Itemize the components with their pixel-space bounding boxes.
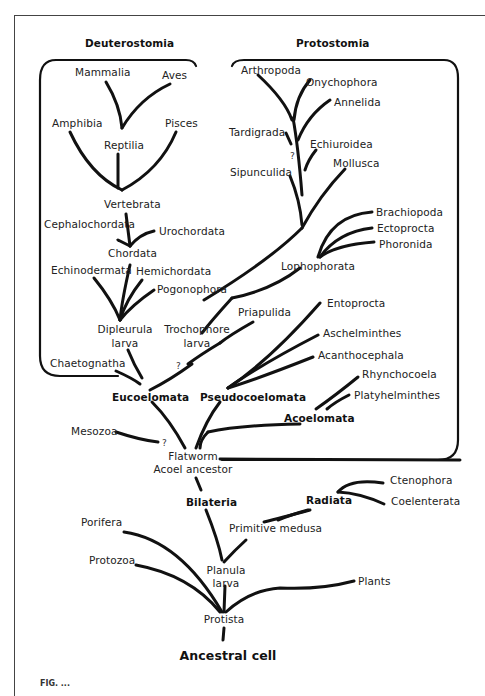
taxon-arthropoda: Arthropoda — [241, 64, 301, 76]
taxon-pisces: Pisces — [165, 117, 198, 129]
taxon-planula-larva-line2: larva — [213, 577, 240, 589]
taxon-protista: Protista — [204, 613, 245, 625]
taxon-dipleurula-larva-line1: Dipleurula — [97, 323, 152, 335]
taxon-phoronida: Phoronida — [379, 238, 433, 250]
taxon-trochophore-larva-line2: larva — [184, 337, 211, 349]
taxon-platyhelminthes: Platyhelminthes — [354, 389, 440, 401]
taxon-vertebrata: Vertebrata — [104, 198, 161, 210]
taxon-mollusca: Mollusca — [333, 157, 379, 169]
uncertain-mark-trochophore: ? — [176, 360, 181, 372]
taxon-acoel-ancestor: Acoel ancestor — [154, 463, 233, 475]
taxon-urochordata: Urochordata — [159, 225, 225, 237]
group-bilateria: Bilateria — [186, 496, 237, 508]
taxon-annelida: Annelida — [334, 96, 381, 108]
taxon-ectoprocta: Ectoprocta — [377, 222, 434, 234]
taxon-ancestral-cell: Ancestral cell — [180, 650, 277, 662]
taxon-mammalia: Mammalia — [75, 66, 130, 78]
uncertain-mark-mesozoa: ? — [162, 437, 167, 449]
taxon-flatworm: Flatworm — [168, 450, 218, 462]
figure-caption-fragment: FIG. ... — [40, 679, 70, 688]
taxon-chordata: Chordata — [108, 247, 157, 259]
taxon-protozoa: Protozoa — [89, 554, 135, 566]
taxon-aschelminthes: Aschelminthes — [323, 327, 401, 339]
taxon-pogonophora: Pogonophora — [157, 283, 227, 295]
taxon-lophophorata: Lophophorata — [281, 260, 355, 272]
taxon-priapulida: Priapulida — [238, 306, 291, 318]
taxon-planula-larva-line1: Planula — [206, 564, 245, 576]
protostomia-header: Protostomia — [296, 37, 370, 49]
taxon-dipleurula-larva-line2: larva — [112, 337, 139, 349]
taxon-amphibia: Amphibia — [52, 117, 102, 129]
taxon-cephalochordata: Cephalochordata — [44, 218, 135, 230]
taxon-sipunculida: Sipunculida — [230, 166, 292, 178]
taxon-tardigrada: Tardigrada — [229, 126, 285, 138]
taxon-mesozoa: Mesozoa — [71, 425, 117, 437]
taxon-acanthocephala: Acanthocephala — [318, 349, 404, 361]
taxon-aves: Aves — [162, 69, 187, 81]
taxon-trochophore-larva-line1: Trochophore — [164, 323, 230, 335]
group-pseudocoelomata: Pseudocoelomata — [200, 391, 306, 403]
deuterostomia-header: Deuterostomia — [85, 37, 174, 49]
taxon-reptilia: Reptilia — [104, 139, 144, 151]
taxon-brachiopoda: Brachiopoda — [376, 206, 443, 218]
taxon-entoprocta: Entoprocta — [327, 297, 385, 309]
group-eucoelomata: Eucoelomata — [112, 391, 189, 403]
taxon-porifera: Porifera — [81, 516, 122, 528]
group-acoelomata: Acoelomata — [284, 412, 355, 424]
taxon-rhynchocoela: Rhynchocoela — [362, 368, 437, 380]
taxon-hemichordata: Hemichordata — [136, 265, 211, 277]
taxon-onychophora: Onychophora — [306, 76, 378, 88]
taxon-primitive-medusa: Primitive medusa — [229, 522, 322, 534]
taxon-chaetognatha: Chaetognatha — [50, 357, 126, 369]
taxon-echiuroidea: Echiuroidea — [310, 138, 373, 150]
uncertain-mark-tardigrada: ? — [290, 150, 295, 162]
taxon-echinodermata: Echinodermata — [51, 264, 132, 276]
taxon-ctenophora: Ctenophora — [390, 474, 452, 486]
group-radiata: Radiata — [306, 494, 352, 506]
taxon-coelenterata: Coelenterata — [391, 495, 460, 507]
taxon-plants: Plants — [358, 575, 391, 587]
